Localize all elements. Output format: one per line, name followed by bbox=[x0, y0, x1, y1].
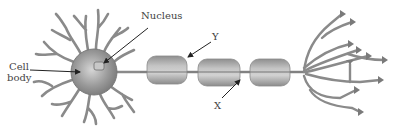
nucleus-arrow bbox=[104, 28, 148, 63]
neuron-illustration bbox=[0, 0, 394, 131]
cell-body-label-line1: Cell bbox=[9, 61, 29, 72]
x-label: X bbox=[214, 100, 221, 111]
cell-body-label-line2: body bbox=[7, 72, 31, 83]
y-arrow bbox=[188, 42, 211, 57]
neuron-diagram: Cell body Nucleus Y X bbox=[0, 0, 394, 131]
y-label: Y bbox=[212, 31, 219, 42]
nucleus-label: Nucleus bbox=[141, 10, 182, 21]
axon-terminals bbox=[304, 14, 384, 112]
myelin-sheath bbox=[147, 56, 290, 86]
nucleus bbox=[94, 62, 104, 70]
terminal-buttons bbox=[340, 10, 388, 116]
